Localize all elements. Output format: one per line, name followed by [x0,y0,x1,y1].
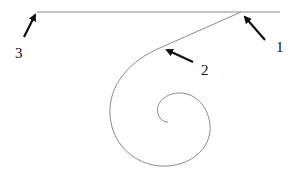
arrow-3 [24,15,35,37]
label-1: 1 [276,39,284,55]
arrow-1 [245,17,265,40]
spiral-diagram: 1 2 3 [0,0,298,179]
spiral-curve [110,47,210,166]
label-3: 3 [15,45,23,61]
label-2: 2 [201,62,209,78]
arrow-2 [167,50,193,62]
tangent-line [162,12,241,47]
